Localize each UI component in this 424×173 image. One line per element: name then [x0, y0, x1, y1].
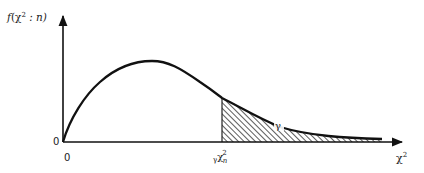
critical-value-label: γχ2n: [213, 149, 228, 165]
y-origin-label: 0: [53, 136, 59, 147]
area-label: γ: [275, 120, 281, 131]
x-origin-label: 0: [64, 152, 70, 163]
x-axis-label: χ2: [396, 151, 407, 165]
chi-squared-diagram: f(χ2 : n) 0 0 γχ2n χ2 γ: [0, 0, 424, 173]
tail-area-hatched: [222, 98, 382, 142]
y-axis-label: f(χ2 : n): [6, 11, 47, 23]
